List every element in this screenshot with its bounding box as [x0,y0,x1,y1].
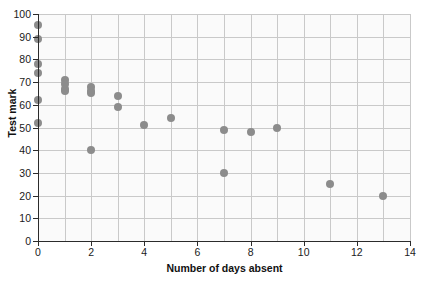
y-axis-line [38,14,39,242]
y-axis-tick-label: 0 [1,236,31,246]
y-axis-tick-label: 30 [1,168,31,178]
data-point [326,180,334,188]
y-axis-tick-label: 70 [1,77,31,87]
y-axis-tick-label-wrap: 50 [0,123,31,133]
x-axis-tick-label: 2 [79,247,103,258]
y-axis-tick-label-wrap: 10 [0,213,31,223]
y-axis-tick-label: 10 [1,213,31,223]
y-axis-tick [33,128,38,129]
data-point [167,114,175,122]
y-axis-tick-label: 50 [1,123,31,133]
data-point [114,103,122,111]
y-axis-tick-label: 80 [1,54,31,64]
y-axis-tick [33,105,38,106]
gridline-vertical [410,14,411,241]
data-point [247,128,255,136]
y-axis-tick-label-wrap: 70 [0,77,31,87]
gridline-vertical [304,14,305,241]
gridline-vertical [197,14,198,241]
y-axis-tick [33,82,38,83]
data-point [87,146,95,154]
y-axis-tick-label-wrap: 100 [0,9,31,19]
x-axis-tick-label: 6 [185,247,209,258]
y-axis-tick-label-wrap: 20 [0,191,31,201]
y-axis-tick-label-wrap: 40 [0,145,31,155]
data-point [114,92,122,100]
data-point [379,192,387,200]
x-axis-tick-label: 10 [292,247,316,258]
gridline-vertical [118,14,119,241]
gridline-vertical [171,14,172,241]
gridline-vertical [65,14,66,241]
x-axis-tick-label: 14 [398,247,422,258]
y-axis-tick [33,59,38,60]
y-axis-tick-label-wrap: 0 [0,236,31,246]
y-axis-tick-label: 40 [1,145,31,155]
y-axis-tick-label-wrap: 80 [0,54,31,64]
data-point [87,89,95,97]
gridline-vertical [330,14,331,241]
y-axis-tick-label-wrap: 30 [0,168,31,178]
data-point [220,126,228,134]
y-axis-tick-label-wrap: 90 [0,32,31,42]
y-axis-tick-label: 90 [1,32,31,42]
x-axis-tick-label: 8 [239,247,263,258]
y-axis-tick [33,150,38,151]
x-axis-title: Number of days absent [38,262,411,274]
y-axis-tick-label: 60 [1,100,31,110]
plot-area [38,14,410,241]
y-axis-tick [33,218,38,219]
x-axis-line [38,241,411,242]
gridline-vertical [91,14,92,241]
scatter-chart: Number of days absent Test mark 01020304… [0,0,426,281]
x-axis-tick-label: 0 [26,247,50,258]
y-axis-tick [33,196,38,197]
y-axis-tick [33,173,38,174]
gridline-vertical [383,14,384,241]
x-axis-tick-label: 12 [345,247,369,258]
y-axis-tick-label: 20 [1,191,31,201]
y-axis-tick-label: 100 [1,9,31,19]
x-axis-tick-label: 4 [132,247,156,258]
data-point [273,124,281,132]
data-point [61,87,69,95]
y-axis-tick-label-wrap: 60 [0,100,31,110]
gridline-vertical [357,14,358,241]
y-axis-tick [33,37,38,38]
y-axis-tick [33,14,38,15]
data-point [220,169,228,177]
